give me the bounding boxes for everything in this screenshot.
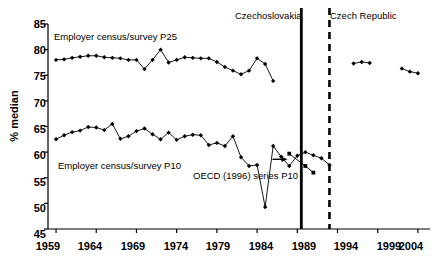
- data-point-marker: [118, 137, 122, 141]
- data-point-marker: [94, 54, 98, 58]
- data-point-marker: [231, 68, 235, 72]
- data-point-marker: [255, 163, 259, 167]
- data-point-marker: [54, 58, 58, 62]
- data-point-marker: [62, 133, 66, 137]
- data-point-marker: [191, 133, 195, 137]
- data-point-marker: [102, 55, 106, 59]
- data-point-marker: [359, 60, 363, 64]
- data-point-marker: [183, 55, 187, 59]
- data-point-marker: [199, 56, 203, 60]
- data-point-marker: [207, 56, 211, 60]
- data-point-marker: [183, 134, 187, 138]
- data-point-marker: [174, 58, 178, 62]
- chart-figure: % median 85 80 75 70 65 60 55 50 45 1959…: [0, 0, 435, 261]
- data-point-marker: [126, 58, 130, 62]
- data-point-marker: [271, 79, 275, 83]
- data-point-marker: [134, 129, 138, 133]
- data-point-marker: [287, 152, 291, 156]
- data-point-marker: [263, 205, 267, 209]
- data-point-marker: [311, 153, 315, 157]
- oecd-arrow-head: [281, 157, 287, 162]
- data-point-marker: [303, 150, 307, 154]
- data-point-marker: [367, 61, 371, 65]
- data-point-marker: [62, 57, 66, 61]
- data-point-marker: [118, 56, 122, 60]
- data-point-marker: [215, 141, 219, 145]
- data-point-marker: [54, 137, 58, 141]
- data-point-marker: [215, 60, 219, 64]
- data-point-marker: [78, 55, 82, 59]
- data-point-marker: [126, 134, 130, 138]
- chart-plot-area: [0, 0, 435, 261]
- data-point-marker: [86, 125, 90, 129]
- data-point-marker: [311, 171, 315, 175]
- data-point-marker: [78, 128, 82, 132]
- data-point-marker: [110, 56, 114, 60]
- data-point-marker: [416, 71, 420, 75]
- data-point-marker: [86, 54, 90, 58]
- data-point-marker: [408, 69, 412, 73]
- data-point-marker: [70, 130, 74, 134]
- data-point-marker: [166, 60, 170, 64]
- data-point-marker: [223, 65, 227, 69]
- data-point-marker: [94, 125, 98, 129]
- data-point-marker: [191, 56, 195, 60]
- data-point-marker: [70, 56, 74, 60]
- data-point-marker: [351, 61, 355, 65]
- data-point-marker: [303, 164, 307, 168]
- data-point-marker: [239, 72, 243, 76]
- data-point-marker: [400, 66, 404, 70]
